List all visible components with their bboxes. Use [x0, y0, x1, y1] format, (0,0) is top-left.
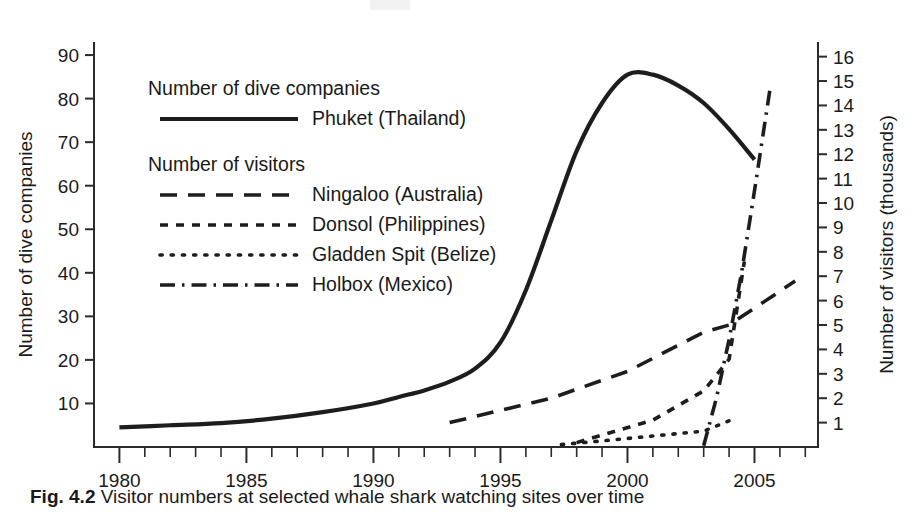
legend-label: Donsol (Philippines) [312, 213, 485, 235]
y-right-tick-label: 4 [833, 339, 844, 360]
y-left-tick-label: 30 [58, 306, 79, 327]
y-right-tick-label: 16 [833, 47, 854, 68]
y-right-tick-label: 13 [833, 120, 854, 141]
legend-group-title: Number of visitors [148, 153, 305, 175]
figure-container: 1020304050607080901234567891011121314151… [0, 0, 917, 512]
y-right-tick-label: 14 [833, 95, 855, 116]
figure-caption: Fig. 4.2 Visitor numbers at selected wha… [30, 486, 900, 508]
y-left-tick-label: 90 [58, 45, 79, 66]
series-gladden-spit [561, 418, 736, 445]
caption-number: Fig. 4.2 [30, 486, 95, 507]
y-right-tick-label: 11 [833, 169, 853, 190]
series-donsol [577, 262, 745, 443]
caption-text: Visitor numbers at selected whale shark … [101, 486, 645, 507]
y-left-axis-title: Number of dive companies [15, 132, 36, 358]
legend-layer: Number of dive companiesPhuket (Thailand… [148, 77, 496, 295]
y-right-tick-label: 8 [833, 242, 844, 263]
y-left-tick-label: 70 [58, 132, 79, 153]
line-chart: 1020304050607080901234567891011121314151… [0, 0, 917, 512]
y-right-tick-label: 9 [833, 217, 844, 238]
y-right-tick-label: 2 [833, 388, 844, 409]
y-left-tick-label: 50 [58, 219, 79, 240]
y-left-tick-label: 80 [58, 89, 79, 110]
y-right-tick-label: 7 [833, 266, 844, 287]
y-right-tick-label: 6 [833, 291, 844, 312]
y-right-tick-label: 1 [833, 413, 844, 434]
legend-label: Phuket (Thailand) [312, 107, 466, 129]
series-holbox [704, 91, 770, 446]
y-left-tick-label: 10 [58, 393, 79, 414]
y-right-tick-label: 10 [833, 193, 854, 214]
y-left-tick-label: 40 [58, 263, 79, 284]
legend-label: Ningaloo (Australia) [312, 183, 483, 205]
legend-group-title: Number of dive companies [148, 77, 380, 99]
y-left-tick-label: 20 [58, 350, 79, 371]
legend-label: Holbox (Mexico) [312, 273, 453, 295]
y-right-tick-label: 15 [833, 71, 854, 92]
y-left-tick-label: 60 [58, 176, 79, 197]
y-right-tick-label: 3 [833, 364, 844, 385]
series-ningaloo [450, 281, 795, 423]
y-right-tick-label: 5 [833, 315, 844, 336]
legend-label: Gladden Spit (Belize) [312, 243, 496, 265]
y-right-axis-title: Number of visitors (thousands) [876, 115, 897, 374]
y-right-tick-label: 12 [833, 144, 854, 165]
